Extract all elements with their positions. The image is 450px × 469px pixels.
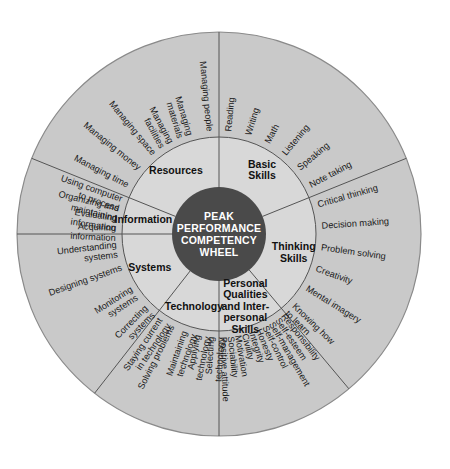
sector-label-resources: Resources	[149, 164, 203, 176]
competency-wheel-diagram: ReadingWritingMathListeningSpeakingNote …	[0, 0, 450, 469]
hub: PEAKPERFORMANCECOMPETENCYWHEEL	[172, 187, 266, 281]
sector-label-technology: Technology	[165, 300, 223, 312]
sector-label-systems: Systems	[128, 261, 171, 273]
wheel-canvas: ReadingWritingMathListeningSpeakingNote …	[0, 0, 450, 469]
sector-label-basic-skills: BasicSkills	[248, 158, 276, 182]
sector-label-information: Information	[115, 213, 173, 225]
